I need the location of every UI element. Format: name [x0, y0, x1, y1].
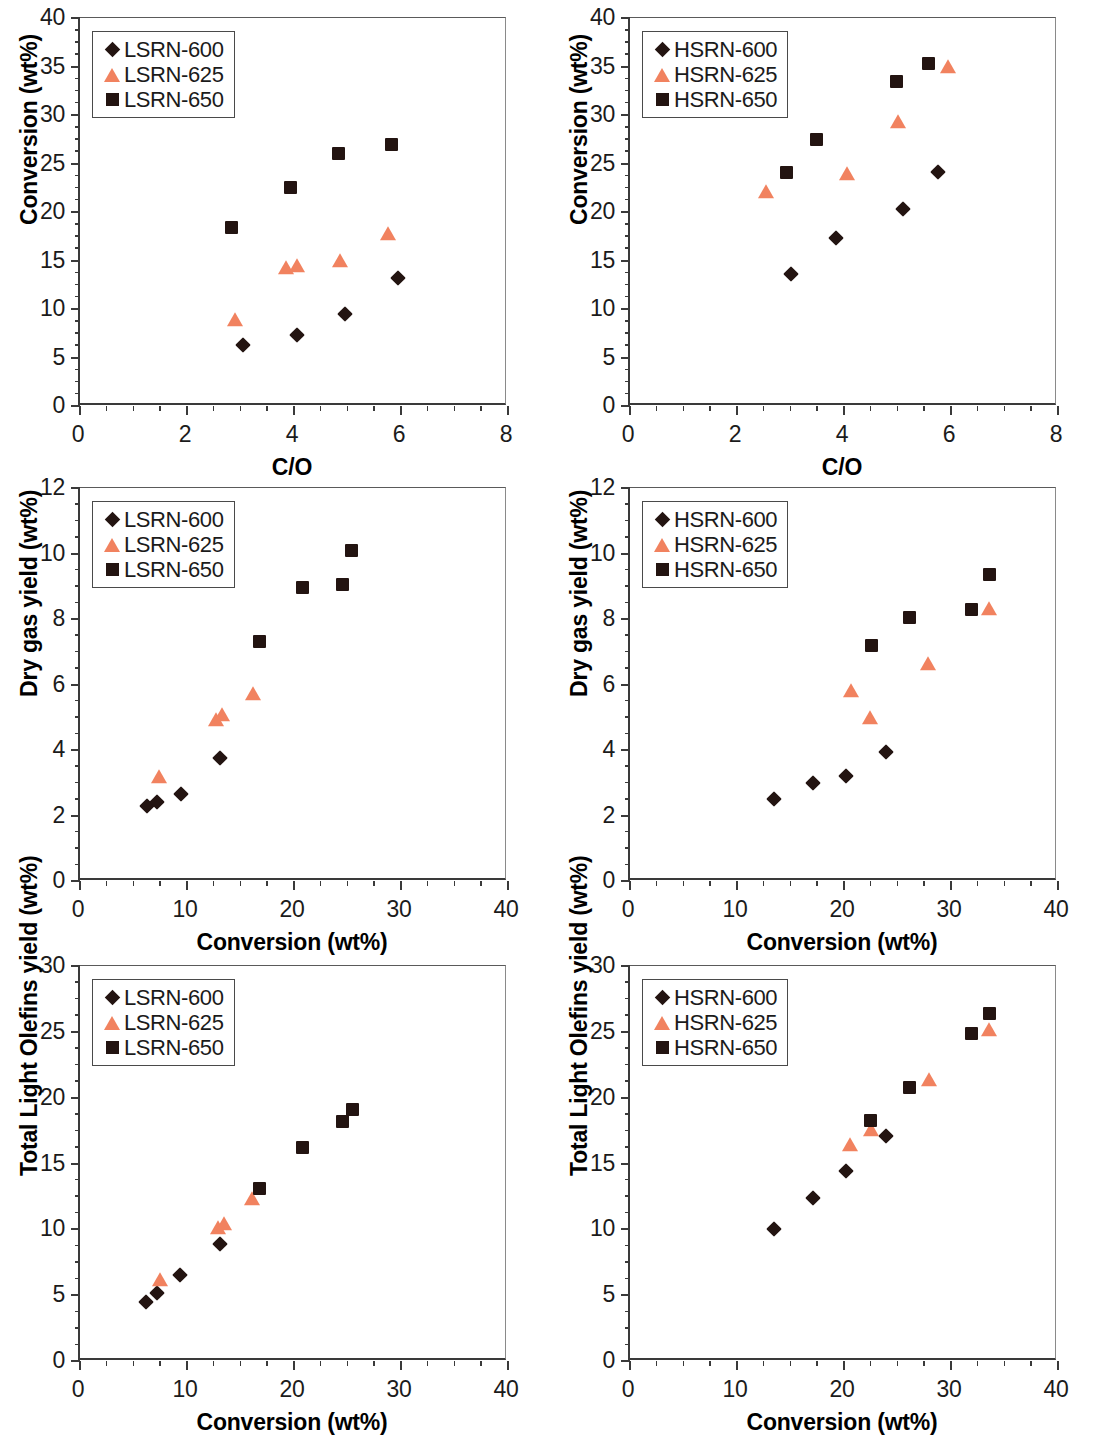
legend-item: HSRN-650 [650, 1035, 777, 1060]
x-axis-major-tick [950, 1361, 952, 1370]
legend-item: HSRN-625 [650, 1010, 777, 1035]
y-axis-major-tick [621, 1031, 630, 1033]
data-point-triangle [850, 1145, 866, 1159]
y-axis-major-tick [621, 1228, 630, 1230]
x-axis-tick-label: 0 [622, 1376, 635, 1403]
y-axis-tick-label: 5 [603, 1281, 616, 1308]
x-axis-major-tick [629, 1361, 631, 1370]
x-axis-minor-tick [683, 1361, 685, 1366]
x-axis-minor-tick [977, 1361, 979, 1366]
x-axis-tick-label: 40 [1044, 1376, 1069, 1403]
square-marker-icon [650, 1041, 674, 1054]
x-axis-tick-label: 30 [937, 1376, 962, 1403]
x-axis-tick-label: 10 [723, 1376, 748, 1403]
x-axis-minor-tick [816, 1361, 818, 1366]
y-axis-tick-label: 10 [590, 1215, 615, 1242]
x-axis-major-tick [736, 1361, 738, 1370]
y-axis-major-tick [621, 1163, 630, 1165]
data-point-square [989, 1013, 1002, 1026]
x-axis-minor-tick [709, 1361, 711, 1366]
x-axis-minor-tick [923, 1361, 925, 1366]
data-point-triangle [929, 1080, 945, 1094]
x-axis-tick-label: 20 [830, 1376, 855, 1403]
y-axis-tick-label: 30 [590, 952, 615, 979]
data-point-square [971, 1033, 984, 1046]
legend-item: HSRN-600 [650, 985, 777, 1010]
data-point-triangle [989, 1030, 1005, 1044]
x-axis-title: Conversion (wt%) [628, 1409, 1056, 1436]
x-axis-minor-tick [870, 1361, 872, 1366]
x-axis-minor-tick [763, 1361, 765, 1366]
diamond-marker-icon [650, 992, 674, 1003]
y-axis-tick-label: 25 [590, 1017, 615, 1044]
y-axis-major-tick [621, 1294, 630, 1296]
data-point-square [909, 1087, 922, 1100]
x-axis-major-tick [1057, 1361, 1059, 1370]
x-axis-minor-tick [790, 1361, 792, 1366]
y-axis-title: Total Light Olefins yield (wt%) [566, 856, 593, 1176]
y-axis-tick-label: 15 [590, 1149, 615, 1176]
x-axis-minor-tick [656, 1361, 658, 1366]
legend-label: HSRN-625 [674, 1010, 777, 1036]
x-axis-major-tick [843, 1361, 845, 1370]
x-axis-minor-tick [897, 1361, 899, 1366]
y-axis-major-tick [621, 1097, 630, 1099]
legend: HSRN-600HSRN-625HSRN-650 [642, 979, 788, 1066]
x-axis-minor-tick [1030, 1361, 1032, 1366]
legend-label: HSRN-600 [674, 985, 777, 1011]
y-axis-major-tick [621, 965, 630, 967]
x-axis-minor-tick [1004, 1361, 1006, 1366]
y-axis-tick-label: 20 [590, 1083, 615, 1110]
y-axis-tick-label: 0 [603, 1347, 616, 1374]
legend-label: HSRN-650 [674, 1035, 777, 1061]
triangle-marker-icon [650, 1016, 674, 1030]
data-point-square [871, 1120, 884, 1133]
